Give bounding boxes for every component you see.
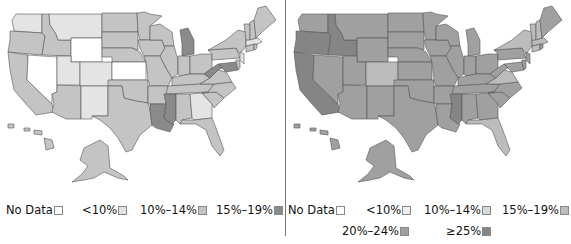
state-ak <box>358 140 414 182</box>
legend-label: 15%–19% <box>502 203 559 217</box>
legend-label: 15%–19% <box>216 203 273 217</box>
state-ri <box>254 44 257 50</box>
state-in <box>178 56 190 76</box>
state-al <box>176 94 192 124</box>
legend-item: 15%–19% <box>502 203 569 217</box>
legend-label: <10% <box>366 203 401 217</box>
state-mi <box>466 28 480 56</box>
state-wy <box>71 38 102 62</box>
state-ne <box>102 48 146 62</box>
state-ks <box>398 62 432 80</box>
state-me <box>540 6 562 38</box>
legend-swatch <box>482 227 491 236</box>
legend-item: <10% <box>82 203 127 217</box>
legend-item: <10% <box>366 203 411 217</box>
us-choropleth-map-left <box>0 0 285 200</box>
legend-item: 10%–14% <box>140 203 207 217</box>
state-ak <box>72 140 128 182</box>
state-fl <box>180 118 224 156</box>
legend-label: 10%–14% <box>140 203 197 217</box>
state-nm <box>367 86 394 119</box>
legend-label: 20%–24% <box>342 224 399 238</box>
legend-swatch <box>400 227 409 236</box>
legend-label: No Data <box>6 203 53 217</box>
state-ia <box>138 40 165 56</box>
state-me <box>254 6 276 38</box>
legend-swatch <box>274 206 283 215</box>
state-fl <box>466 118 510 156</box>
legend-item: No Data <box>6 203 63 217</box>
legend-item: No Data <box>288 203 345 217</box>
state-ne <box>388 48 432 62</box>
state-co <box>366 62 398 86</box>
legend-swatch <box>198 206 207 215</box>
state-nd <box>388 13 424 32</box>
legend-label: 10%–14% <box>424 203 481 217</box>
legend-swatch <box>402 206 411 215</box>
state-sd <box>102 32 138 50</box>
state-co <box>80 62 112 86</box>
state-nd <box>102 13 138 32</box>
state-wa <box>12 14 42 33</box>
legend-label: No Data <box>288 203 335 217</box>
state-ia <box>424 40 451 56</box>
map-panel-left: No Data<10%10%–14%15%–19% <box>0 0 285 244</box>
map-panel-right: No Data<10%10%–14%15%–19%20%–24%≥25% <box>286 0 571 244</box>
legend-item: 15%–19% <box>216 203 283 217</box>
legend-swatch <box>560 206 569 215</box>
state-or <box>294 31 331 55</box>
legend-label: <10% <box>82 203 117 217</box>
legend-item: 10%–14% <box>424 203 491 217</box>
state-hi <box>8 124 54 150</box>
legend-item: ≥25% <box>446 224 491 238</box>
state-or <box>8 31 45 55</box>
us-choropleth-map-right <box>286 0 571 200</box>
legend-item: 20%–24% <box>342 224 409 238</box>
state-hi <box>294 124 340 150</box>
state-al <box>462 94 478 124</box>
state-wa <box>298 14 328 33</box>
legend-swatch <box>336 206 345 215</box>
state-mi <box>180 28 194 56</box>
state-ms <box>450 94 462 124</box>
state-in <box>464 56 476 76</box>
state-ms <box>164 94 176 124</box>
legend-swatch <box>482 206 491 215</box>
state-ri <box>540 44 543 50</box>
state-nj <box>526 52 530 64</box>
state-mt <box>335 14 388 40</box>
state-ks <box>112 62 146 80</box>
state-mt <box>49 14 102 40</box>
legend-swatch <box>54 206 63 215</box>
state-nm <box>81 86 108 119</box>
state-nj <box>240 52 244 64</box>
state-sd <box>388 32 424 50</box>
state-wy <box>357 38 388 62</box>
legend-swatch <box>118 206 127 215</box>
legend-label: ≥25% <box>446 224 481 238</box>
